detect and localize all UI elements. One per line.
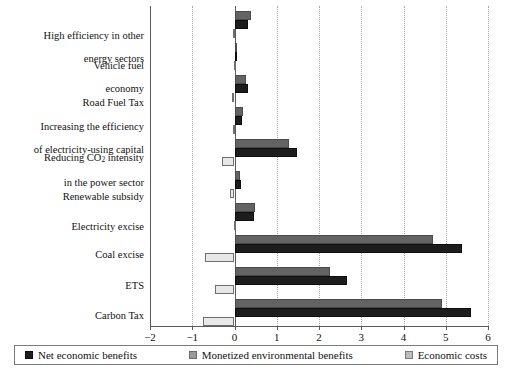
x-tick-label: 3 — [346, 331, 376, 343]
tick-mark — [319, 326, 320, 330]
bar-economic-costs-vehicle-fuel-economy — [234, 61, 236, 70]
tick-mark — [446, 326, 447, 330]
category-label-line: Electricity excise — [71, 221, 144, 232]
bar-economic-costs-ets — [215, 285, 234, 294]
bar-group-increasing-efficiency-electricity-capital — [150, 102, 488, 134]
category-label-coal-excise: Coal excise — [0, 237, 144, 260]
tick-mark — [150, 326, 151, 330]
category-label-renewable-subsidy: Renewable subsidy — [0, 179, 144, 202]
tick-mark — [361, 326, 362, 330]
x-tick-label: 0 — [220, 331, 250, 343]
cost-swatch-icon — [405, 351, 413, 359]
bar-net-economic-benefits-carbon-tax — [235, 308, 472, 317]
bar-monetized-environmental-benefits-ets — [235, 267, 331, 276]
category-label-line: High efficiency in other — [44, 30, 144, 41]
x-tick-label: 1 — [262, 331, 292, 343]
legend-label: Net economic benefits — [38, 349, 137, 361]
bar-net-economic-benefits-coal-excise — [235, 244, 462, 253]
category-label-line: Vehicle fuel — [94, 60, 144, 71]
env-swatch-icon — [189, 351, 197, 359]
category-label-line: Renewable subsidy — [63, 191, 144, 202]
bar-net-economic-benefits-reducing-co2-intensity-power-sector — [235, 148, 298, 157]
bar-net-economic-benefits-road-fuel-tax — [235, 84, 249, 93]
bar-net-economic-benefits-renewable-subsidy — [235, 180, 241, 189]
legend-label: Monetized environmental benefits — [202, 349, 353, 361]
bar-economic-costs-high-efficiency-other-energy — [233, 29, 235, 38]
x-tick-label: 5 — [431, 331, 461, 343]
net-swatch-icon — [25, 351, 33, 359]
category-label-line: Reducing CO2 intensity — [44, 152, 144, 163]
bar-economic-costs-reducing-co2-intensity-power-sector — [222, 157, 235, 166]
bar-group-carbon-tax — [150, 294, 488, 326]
x-tick-label: −2 — [135, 331, 165, 343]
tick-mark — [192, 326, 193, 330]
category-label-line: ETS — [125, 280, 144, 291]
bar-group-electricity-excise — [150, 198, 488, 230]
category-label-line: Road Fuel Tax — [83, 97, 144, 108]
legend-item-economic-costs: Economic costs — [405, 349, 487, 361]
bar-economic-costs-increasing-efficiency-electricity-capital — [233, 125, 235, 134]
gridline — [488, 6, 489, 326]
x-tick-label: 2 — [304, 331, 334, 343]
category-axis-labels: High efficiency in other energy sectors … — [0, 6, 148, 326]
category-label-carbon-tax: Carbon Tax — [0, 298, 144, 321]
bar-economic-costs-electricity-excise — [234, 221, 236, 230]
category-label-electricity-excise: Electricity excise — [0, 209, 144, 232]
bar-monetized-environmental-benefits-reducing-co2-intensity-power-sector — [235, 139, 290, 148]
bar-net-economic-benefits-high-efficiency-other-energy — [235, 20, 249, 29]
category-label-ets: ETS — [0, 268, 144, 291]
bar-group-coal-excise — [150, 230, 488, 262]
bar-monetized-environmental-benefits-road-fuel-tax — [235, 75, 247, 84]
bar-monetized-environmental-benefits-electricity-excise — [235, 203, 255, 212]
bar-group-renewable-subsidy — [150, 166, 488, 198]
bar-economic-costs-renewable-subsidy — [230, 189, 234, 198]
bar-net-economic-benefits-increasing-efficiency-electricity-capital — [235, 116, 243, 125]
tick-mark — [235, 326, 236, 330]
bar-net-economic-benefits-ets — [235, 276, 347, 285]
bar-net-economic-benefits-electricity-excise — [235, 212, 254, 221]
category-label-text: Reducing CO — [44, 152, 101, 163]
bar-economic-costs-carbon-tax — [203, 317, 234, 326]
bar-group-ets — [150, 262, 488, 294]
x-tick-label: 4 — [389, 331, 419, 343]
bar-chart: High efficiency in other energy sectors … — [0, 0, 514, 387]
bar-monetized-environmental-benefits-increasing-efficiency-electricity-capital — [235, 107, 243, 116]
plot-area: −2−10123456 — [150, 6, 488, 326]
legend-item-monetized-environmental-benefits: Monetized environmental benefits — [189, 349, 353, 361]
legend-item-net-economic-benefits: Net economic benefits — [25, 349, 137, 361]
bar-economic-costs-road-fuel-tax — [232, 93, 234, 102]
tick-mark — [404, 326, 405, 330]
bar-monetized-environmental-benefits-carbon-tax — [235, 299, 442, 308]
tick-mark — [277, 326, 278, 330]
legend-label: Economic costs — [418, 349, 487, 361]
category-label-line: Coal excise — [95, 249, 144, 260]
bar-net-economic-benefits-vehicle-fuel-economy — [235, 52, 237, 61]
category-label-text: intensity — [105, 152, 144, 163]
bar-monetized-environmental-benefits-vehicle-fuel-economy — [235, 43, 237, 52]
bar-group-vehicle-fuel-economy — [150, 38, 488, 70]
chart-legend: Net economic benefits Monetized environm… — [14, 345, 498, 365]
x-tick-label: −1 — [177, 331, 207, 343]
tick-mark — [488, 326, 489, 330]
bar-group-reducing-co2-intensity-power-sector — [150, 134, 488, 166]
category-label-road-fuel-tax: Road Fuel Tax — [0, 85, 144, 108]
bar-group-high-efficiency-other-energy — [150, 6, 488, 38]
category-label-line: Increasing the efficiency — [40, 121, 144, 132]
bar-monetized-environmental-benefits-high-efficiency-other-energy — [235, 11, 251, 20]
bar-economic-costs-coal-excise — [205, 253, 234, 262]
bar-group-road-fuel-tax — [150, 70, 488, 102]
bar-monetized-environmental-benefits-coal-excise — [235, 235, 434, 244]
category-label-line: Carbon Tax — [95, 310, 144, 321]
bar-monetized-environmental-benefits-renewable-subsidy — [235, 171, 240, 180]
x-tick-label: 6 — [473, 331, 503, 343]
